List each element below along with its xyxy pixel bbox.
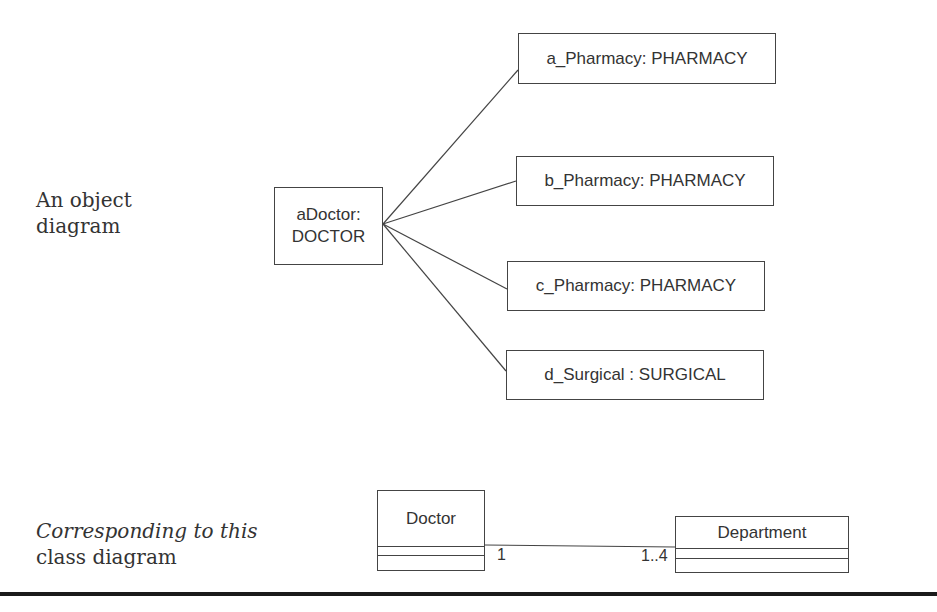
caption-line-italic: Corresponding to this	[36, 518, 258, 544]
class-doctor[interactable]: Doctor	[377, 490, 485, 571]
object-class: DOCTOR	[292, 226, 365, 248]
object-adoctor[interactable]: aDoctor: DOCTOR	[274, 187, 383, 265]
object-c-pharmacy[interactable]: c_Pharmacy: PHARMACY	[507, 261, 765, 311]
object-d-surgical[interactable]: d_Surgical : SURGICAL	[506, 350, 764, 400]
caption-line: An object	[36, 187, 132, 213]
multiplicity-source: 1	[497, 546, 506, 564]
object-diagram-caption: An object diagram	[36, 187, 132, 239]
attributes-compartment	[378, 546, 484, 555]
object-label: c_Pharmacy: PHARMACY	[536, 276, 736, 296]
class-department[interactable]: Department	[675, 516, 849, 573]
attributes-compartment	[676, 548, 848, 558]
class-diagram-caption: Corresponding to this class diagram	[36, 518, 258, 570]
bottom-rule-divider	[0, 592, 937, 596]
class-name: Department	[718, 523, 807, 543]
link-d-surgical	[383, 224, 506, 371]
class-name-compartment: Doctor	[378, 491, 484, 546]
object-name: aDoctor:	[296, 204, 360, 226]
class-name-compartment: Department	[676, 517, 848, 548]
caption-line: diagram	[36, 213, 132, 239]
object-label: d_Surgical : SURGICAL	[544, 365, 725, 385]
object-label: a_Pharmacy: PHARMACY	[546, 49, 747, 69]
multiplicity-target: 1..4	[641, 547, 668, 565]
link-c-pharmacy	[383, 224, 507, 289]
object-b-pharmacy[interactable]: b_Pharmacy: PHARMACY	[516, 156, 774, 206]
object-a-pharmacy[interactable]: a_Pharmacy: PHARMACY	[518, 33, 776, 84]
link-a-pharmacy	[383, 70, 518, 224]
object-label: b_Pharmacy: PHARMACY	[544, 171, 745, 191]
operations-compartment	[676, 558, 848, 571]
class-name: Doctor	[406, 509, 456, 529]
caption-line: class diagram	[36, 544, 258, 570]
operations-compartment	[378, 555, 484, 569]
link-b-pharmacy	[383, 181, 516, 224]
